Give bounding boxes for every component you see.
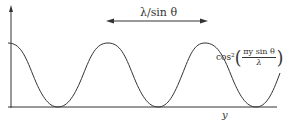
formula-denominator: λ	[257, 58, 262, 67]
left-paren: (	[235, 48, 242, 67]
period-label: λ/sin θ	[140, 6, 177, 19]
arrow-right-icon	[200, 19, 208, 24]
x-axis-label: y	[222, 109, 228, 120]
arrow-left-icon	[106, 19, 114, 24]
formula-numerator: πy sin θ	[242, 47, 276, 58]
right-paren: )	[277, 48, 284, 67]
formula-fraction: πy sin θ λ	[242, 47, 276, 67]
interference-intensity-figure: λ/sin θ cos² ( πy sin θ λ ) y	[0, 0, 289, 124]
vertical-axis-arrow-icon	[9, 5, 13, 12]
intensity-formula: cos² ( πy sin θ λ )	[216, 47, 283, 67]
formula-prefix: cos²	[216, 52, 235, 62]
